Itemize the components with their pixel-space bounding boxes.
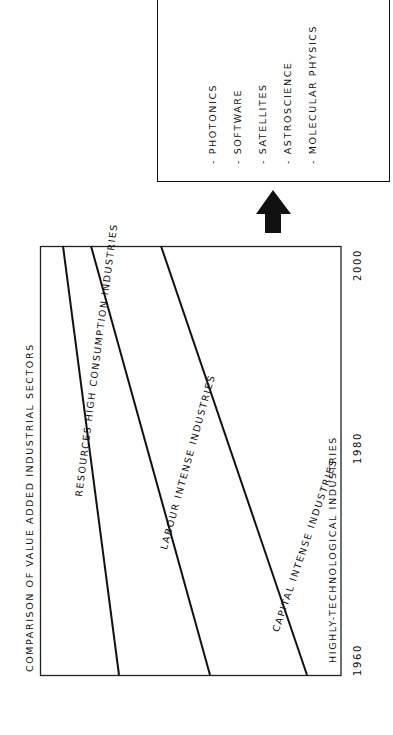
tick-1980: 1980 (353, 432, 363, 464)
chart-title: COMPARISON OF VALUE ADDED INDUSTRIAL SEC… (25, 343, 35, 672)
tick-2000: 2000 (353, 249, 363, 281)
x-axis-label: HIGHLY-TECHNOLOGICAL INDUSTRIES (328, 436, 338, 663)
up-arrow-icon (256, 190, 291, 233)
tick-1960: 1960 (353, 644, 363, 676)
line-resources (63, 246, 119, 675)
